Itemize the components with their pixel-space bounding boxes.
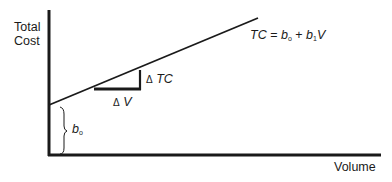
y-axis-label-line2: Cost: [14, 34, 40, 48]
intercept-label: bo: [72, 122, 83, 140]
equation-b0-subscript: o: [288, 35, 292, 42]
y-axis-label-line1: Total: [14, 20, 40, 34]
equation-variable: V: [317, 28, 325, 42]
delta-icon: Δ: [113, 97, 120, 108]
x-axis-label: Volume: [334, 160, 376, 174]
delta-tc-label: Δ TC: [146, 72, 173, 87]
equation-plus: +: [295, 28, 302, 42]
equation-equals: =: [270, 28, 277, 42]
intercept-brace: [60, 107, 67, 154]
y-axis-label: Total Cost: [14, 20, 40, 48]
equation-b0: b: [281, 28, 288, 42]
delta-tc-text: TC: [156, 72, 173, 86]
total-cost-line: [49, 18, 258, 105]
delta-v-label: Δ V: [113, 95, 132, 110]
intercept-b: b: [72, 122, 79, 136]
intercept-subscript: o: [79, 129, 83, 136]
delta-v-text: V: [123, 95, 131, 109]
equation-b1: b: [306, 28, 313, 42]
delta-icon: Δ: [146, 74, 153, 85]
equation-lhs: TC: [250, 28, 267, 42]
cost-diagram-canvas: [0, 0, 392, 182]
equation-label: TC = bo + b1V: [250, 28, 325, 46]
